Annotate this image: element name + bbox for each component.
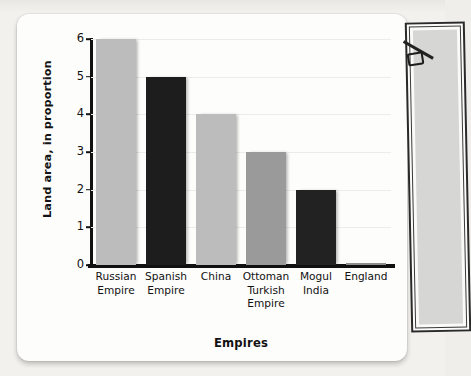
plot-area: 0123456 (91, 39, 391, 265)
gridline (91, 39, 391, 40)
bar-russian-empire (96, 39, 136, 265)
y-axis-title: Land area, in proportion (37, 14, 57, 264)
x-tick-label: England (336, 270, 396, 284)
y-tick-label: 1 (77, 222, 91, 234)
x-axis-title: Empires (91, 336, 391, 350)
framed-picture-thumbnail (405, 21, 471, 332)
bar-chart: Land area, in proportion 0123456 Russian… (17, 14, 407, 361)
gridline (91, 114, 391, 115)
y-tick-label: 4 (77, 109, 91, 121)
chart-card: Land area, in proportion 0123456 Russian… (17, 14, 407, 361)
picture-hook-icon (407, 51, 425, 66)
y-tick-label: 6 (77, 33, 91, 45)
y-tick-label: 5 (77, 71, 91, 83)
picture-image (413, 30, 463, 325)
gridline (91, 152, 391, 153)
y-tick-label: 3 (77, 146, 91, 158)
gridline (91, 77, 391, 78)
x-axis-labels: RussianEmpireSpanishEmpireChinaOttomanTu… (91, 270, 391, 332)
gridline (91, 227, 391, 228)
bar-mogul-india (296, 190, 336, 265)
x-tick-label-line: India (286, 284, 346, 298)
bar-china (196, 114, 236, 265)
y-tick-label: 2 (77, 184, 91, 196)
x-tick-label-line: Empire (136, 284, 196, 298)
bar-spanish-empire (146, 77, 186, 265)
bar-ottoman-turkish-empire (246, 152, 286, 265)
x-tick-label-line: England (336, 270, 396, 284)
gridline (91, 190, 391, 191)
bar-england (346, 263, 386, 265)
x-tick-label-line: Empire (236, 297, 296, 311)
